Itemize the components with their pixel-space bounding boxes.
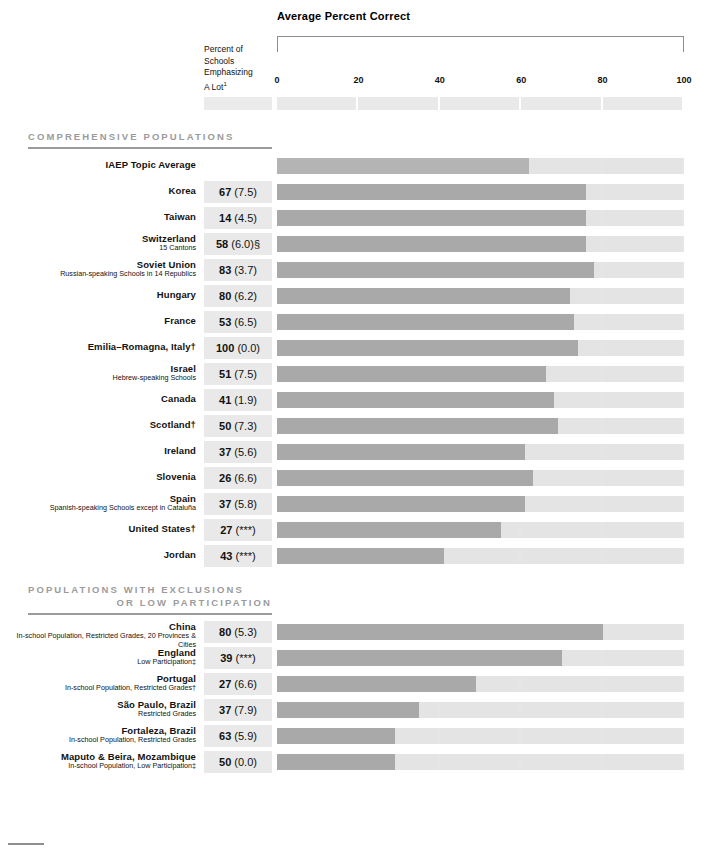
bar-track-segment xyxy=(603,470,682,486)
chart-row[interactable]: Fortaleza, BrazilIn-school Population, R… xyxy=(0,725,702,751)
chart-row[interactable]: IsraelHebrew-speaking Schools51 (7.5) xyxy=(0,363,702,389)
bar-fill xyxy=(277,184,586,200)
bar-track xyxy=(277,288,684,304)
bar-track xyxy=(277,210,684,226)
percent-standard-error: (***) xyxy=(233,652,256,664)
row-label: Jordan xyxy=(0,549,196,560)
percent-value: 43 xyxy=(220,550,232,562)
chart-row[interactable]: IAEP Topic Average xyxy=(0,155,702,181)
bar-track-segment xyxy=(521,522,600,538)
bar-track-segment xyxy=(603,624,682,640)
chart-row[interactable]: Slovenia26 (6.6) xyxy=(0,467,702,493)
row-label-group: SpainSpanish-speaking Schools except in … xyxy=(0,493,196,513)
chart-row[interactable]: Taiwan14 (4.5) xyxy=(0,207,702,233)
bar-track xyxy=(277,650,684,666)
percent-value: 67 xyxy=(219,186,231,198)
row-sublabel: Restricted Grades xyxy=(0,710,196,719)
chart-row[interactable]: Switzerland15 Cantons58 (6.0)§ xyxy=(0,233,702,259)
percent-standard-error: (6.0)§ xyxy=(228,238,260,250)
percent-standard-error: (6.6) xyxy=(231,472,257,484)
axis-band-segment xyxy=(277,97,356,110)
chart-row[interactable]: SpainSpanish-speaking Schools except in … xyxy=(0,493,702,519)
percent-emphasizing-value: 27 (***) xyxy=(204,519,272,541)
axis-band-left xyxy=(204,97,272,110)
row-label-group: Slovenia xyxy=(0,471,196,482)
percent-value: 80 xyxy=(219,626,231,638)
bar-fill xyxy=(277,288,570,304)
row-label: Canada xyxy=(0,393,196,404)
chart-row[interactable]: Korea67 (7.5) xyxy=(0,181,702,207)
axis-tick-60: 60 xyxy=(516,75,526,85)
percent-standard-error: (5.3) xyxy=(231,626,257,638)
bar-track-segment xyxy=(603,728,682,744)
percent-value: 51 xyxy=(219,368,231,380)
percent-emphasizing-value: 37 (5.8) xyxy=(204,493,272,515)
bar-track-segment xyxy=(440,754,519,770)
percent-standard-error: (1.9) xyxy=(231,394,257,406)
section-title-line: OR LOW PARTICIPATION xyxy=(28,596,272,609)
row-label-group: Ireland xyxy=(0,445,196,456)
bar-track xyxy=(277,236,684,252)
chart-row[interactable]: Maputo & Beira, MozambiqueIn-school Popu… xyxy=(0,751,702,777)
bar-fill xyxy=(277,366,546,382)
chart-row[interactable]: Canada41 (1.9) xyxy=(0,389,702,415)
row-label-group: Maputo & Beira, MozambiqueIn-school Popu… xyxy=(0,751,196,771)
axis-tick-row: 020406080100 xyxy=(0,75,702,89)
percent-value: 37 xyxy=(219,446,231,458)
percent-emphasizing-value: 53 (6.5) xyxy=(204,311,272,333)
row-label: Scotland† xyxy=(0,419,196,430)
percent-standard-error: (0.0) xyxy=(231,756,257,768)
row-label-group: Emilia–Romagna, Italy† xyxy=(0,341,196,352)
row-label: United States† xyxy=(0,523,196,534)
section-title-line: COMPREHENSIVE POPULATIONS xyxy=(28,130,272,143)
bar-track-segment xyxy=(521,158,600,174)
chart-row[interactable]: Hungary80 (6.2) xyxy=(0,285,702,311)
percent-emphasizing-value: 100 (0.0) xyxy=(204,337,272,359)
bar-fill xyxy=(277,418,558,434)
chart-row[interactable]: Jordan43 (***) xyxy=(0,545,702,571)
percent-emphasizing-value: 67 (7.5) xyxy=(204,181,272,203)
bar-track-segment xyxy=(603,262,682,278)
percent-emphasizing-value: 37 (7.9) xyxy=(204,699,272,721)
percent-emphasizing-value: 50 (0.0) xyxy=(204,751,272,773)
row-label: Hungary xyxy=(0,289,196,300)
chart-row[interactable]: Scotland†50 (7.3) xyxy=(0,415,702,441)
chart-row[interactable]: PortugalIn-school Population, Restricted… xyxy=(0,673,702,699)
bar-track-segment xyxy=(603,444,682,460)
row-label-group: IAEP Topic Average xyxy=(0,159,196,170)
bar-fill xyxy=(277,314,574,330)
chart-row[interactable]: EnglandLow Participation‡39 (***) xyxy=(0,647,702,673)
bar-fill xyxy=(277,624,603,640)
bar-fill xyxy=(277,236,586,252)
chart-row[interactable]: São Paulo, BrazilRestricted Grades37 (7.… xyxy=(0,699,702,725)
percent-emphasizing-value: 63 (5.9) xyxy=(204,725,272,747)
section-title: COMPREHENSIVE POPULATIONS xyxy=(0,130,702,143)
chart-row[interactable]: Soviet UnionRussian-speaking Schools in … xyxy=(0,259,702,285)
percent-value: 37 xyxy=(219,498,231,510)
bar-track-segment xyxy=(603,522,682,538)
chart-row[interactable]: Ireland37 (5.6) xyxy=(0,441,702,467)
row-sublabel: 15 Cantons xyxy=(0,244,196,253)
row-label: Slovenia xyxy=(0,471,196,482)
percent-value: 27 xyxy=(219,678,231,690)
chart-row[interactable]: United States†27 (***) xyxy=(0,519,702,545)
percent-standard-error: (7.3) xyxy=(231,420,257,432)
chart-row[interactable]: France53 (6.5) xyxy=(0,311,702,337)
chart-row[interactable]: ChinaIn-school Population, Restricted Gr… xyxy=(0,621,702,647)
chart-row[interactable]: Emilia–Romagna, Italy†100 (0.0) xyxy=(0,337,702,363)
bar-fill xyxy=(277,340,578,356)
bar-fill xyxy=(277,522,501,538)
bar-fill xyxy=(277,496,525,512)
bar-track-segment xyxy=(440,702,519,718)
percent-emphasizing-value: 39 (***) xyxy=(204,647,272,669)
chart-title: Average Percent Correct xyxy=(277,10,410,22)
row-label-group: Switzerland15 Cantons xyxy=(0,233,196,253)
bar-track-segment xyxy=(521,496,600,512)
percent-emphasizing-value: 43 (***) xyxy=(204,545,272,567)
row-label: Taiwan xyxy=(0,211,196,222)
bar-track xyxy=(277,262,684,278)
bar-track xyxy=(277,728,684,744)
percent-standard-error: (7.9) xyxy=(231,704,257,716)
row-label-group: Jordan xyxy=(0,549,196,560)
bar-track xyxy=(277,548,684,564)
